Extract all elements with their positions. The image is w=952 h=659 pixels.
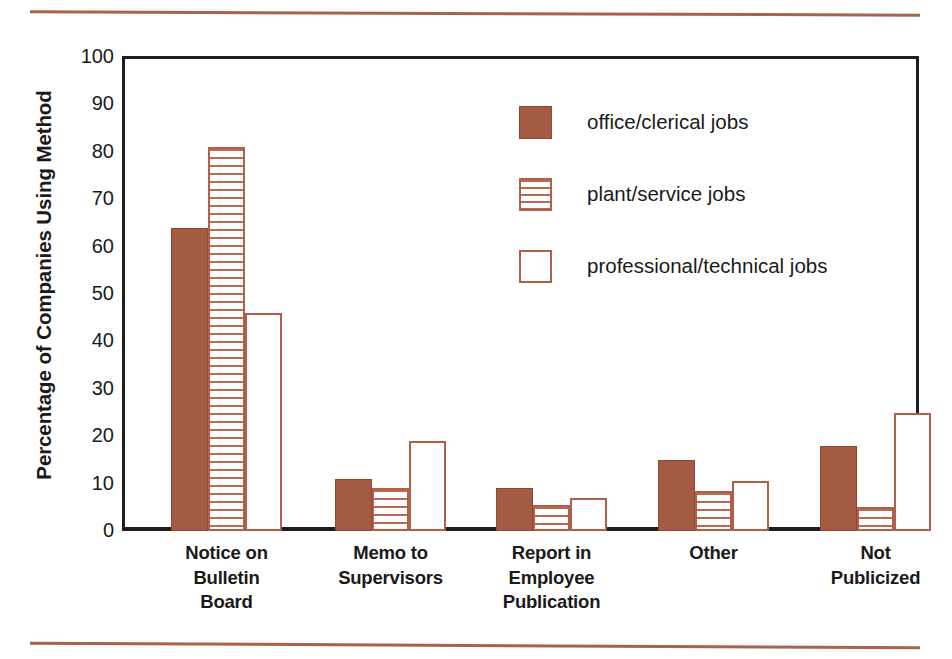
y-axis-tick-label: 50	[72, 282, 114, 305]
x-axis-label-line: Not	[781, 541, 952, 566]
legend-label: office/clerical jobs	[587, 110, 748, 134]
x-axis-label-line: Publication	[457, 590, 647, 615]
legend-label: plant/service jobs	[587, 182, 745, 206]
y-axis-tick-label: 70	[72, 187, 114, 210]
legend-item: professional/technical jobs	[519, 230, 827, 302]
x-axis-label-line: Bulletin	[132, 566, 322, 591]
x-axis-label-line: Board	[132, 590, 322, 615]
x-axis-label: Notice onBulletinBoard	[132, 541, 322, 615]
x-axis-label: NotPublicized	[781, 541, 952, 590]
y-axis-tick-label: 100	[72, 45, 114, 68]
y-axis-tick-label: 30	[72, 377, 114, 400]
y-axis-tick-label: 60	[72, 235, 114, 258]
y-axis-tick-label: 20	[72, 424, 114, 447]
legend-swatch-icon	[519, 106, 552, 139]
x-axis-label-line: Notice on	[132, 541, 322, 566]
y-axis-tick-label: 10	[72, 472, 114, 495]
legend-item: office/clerical jobs	[519, 86, 827, 158]
legend-label: professional/technical jobs	[587, 254, 827, 278]
y-axis-tick-label: 80	[72, 140, 114, 163]
legend-item: plant/service jobs	[519, 158, 827, 230]
chart-legend: office/clerical jobsplant/service jobspr…	[519, 86, 827, 302]
y-axis-tick-label: 0	[72, 519, 114, 542]
legend-swatch-icon	[519, 178, 552, 211]
x-axis-label-line: Employee	[457, 566, 647, 591]
legend-swatch-icon	[519, 250, 552, 283]
y-axis-tick-label: 90	[72, 92, 114, 115]
y-axis-title: Percentage of Companies Using Method	[22, 30, 66, 540]
bar-chart-figure: Percentage of Companies Using Method 010…	[0, 0, 952, 659]
x-axis-label-line: Publicized	[781, 566, 952, 591]
y-axis-tick-label: 40	[72, 329, 114, 352]
